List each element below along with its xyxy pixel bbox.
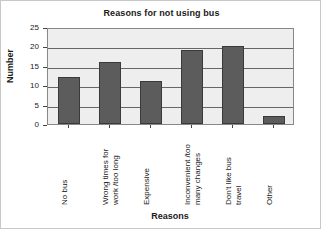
bar	[222, 46, 244, 124]
x-axis-title: Reasons	[46, 211, 294, 221]
bar	[140, 81, 162, 124]
y-tick-mark	[43, 125, 47, 126]
gridline	[48, 87, 293, 88]
y-tick-label: 25	[13, 24, 39, 32]
y-tick-label: 0	[13, 121, 39, 129]
x-tick-mark	[232, 125, 233, 128]
plot-area	[47, 28, 294, 125]
x-tick-mark	[150, 125, 151, 128]
bar	[263, 116, 285, 124]
y-tick-label: 10	[13, 82, 39, 90]
x-tick-mark	[191, 125, 192, 128]
x-tick-mark	[273, 125, 274, 128]
bar-chart-figure: Reasons for not using bus Number 0510152…	[0, 0, 321, 229]
bar	[99, 62, 121, 124]
y-tick-label: 15	[13, 63, 39, 71]
x-category-label: many changes	[193, 153, 202, 205]
x-category-label: No bus	[60, 180, 69, 205]
x-category-label: Other	[265, 185, 274, 205]
x-category-label: travel	[234, 185, 243, 205]
y-tick-label: 5	[13, 102, 39, 110]
x-category-label: Don't like bus	[224, 157, 233, 205]
x-tick-mark	[68, 125, 69, 128]
x-category-label: Expensive	[142, 168, 151, 205]
x-tick-mark	[109, 125, 110, 128]
gridline	[48, 107, 293, 108]
gridline	[48, 48, 293, 49]
y-tick-label: 20	[13, 43, 39, 51]
x-category-label: Inconvenient /too	[183, 144, 192, 205]
gridline	[48, 68, 293, 69]
x-category-label: work /too long	[111, 155, 120, 205]
chart-title: Reasons for not using bus	[1, 8, 321, 18]
bar	[58, 77, 80, 124]
bar	[181, 50, 203, 124]
x-category-label: Wrong times for	[101, 149, 110, 205]
